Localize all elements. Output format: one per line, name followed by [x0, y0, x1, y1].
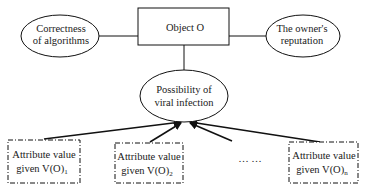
- ellipsis-text: … …: [238, 153, 262, 164]
- node-attr2-line1: Attribute value: [117, 151, 181, 162]
- node-attr1: Attribute value given V(O)1: [8, 140, 80, 183]
- node-attr2: Attribute value given V(O)2: [115, 143, 183, 183]
- node-infection: Possibility of viral infection: [140, 70, 228, 122]
- node-reputation: The owner's reputation: [266, 15, 340, 57]
- node-attr1-line1: Attribute value: [12, 149, 76, 160]
- node-attrn-sub: n: [344, 169, 348, 177]
- diagram-canvas: Object O Correctness of algorithms The o…: [0, 0, 373, 190]
- node-correctness-line2: of algorithms: [33, 35, 89, 46]
- node-object: Object O: [138, 8, 229, 45]
- node-correctness: Correctness of algorithms: [21, 15, 99, 57]
- node-correctness-line1: Correctness: [36, 23, 86, 34]
- node-infection-line2: viral infection: [154, 97, 214, 108]
- node-attrn-line2: given V(O): [296, 164, 344, 176]
- node-attrn: Attribute value given V(O)n: [289, 142, 358, 183]
- node-reputation-line1: The owner's: [276, 23, 327, 34]
- node-infection-line1: Possibility of: [156, 84, 212, 95]
- node-attrn-line1: Attribute value: [292, 150, 356, 161]
- node-attr2-line2: given V(O): [121, 165, 169, 177]
- node-reputation-line2: reputation: [281, 35, 324, 46]
- node-attr1-line2: given V(O): [16, 163, 64, 175]
- node-object-label: Object O: [166, 22, 205, 33]
- node-attr2-sub: 2: [169, 170, 173, 178]
- node-attr1-sub: 1: [64, 168, 68, 176]
